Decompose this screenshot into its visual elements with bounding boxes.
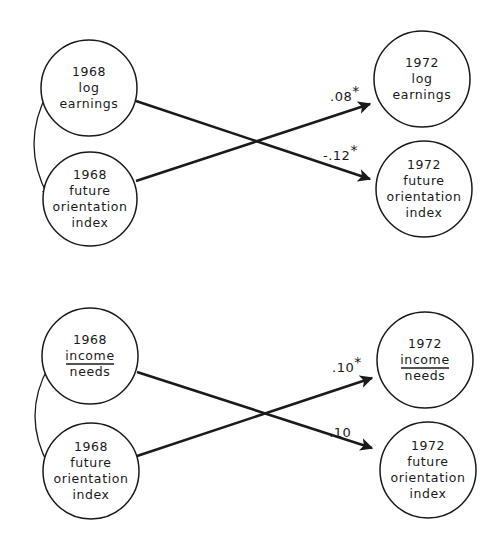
node-label-line: 1968: [73, 332, 107, 347]
node-label-line: index: [409, 486, 446, 501]
node-label-line: index: [405, 205, 442, 220]
node-label-line: income: [400, 352, 449, 367]
node-i1968_inc: 1968incomeneeds: [42, 308, 138, 404]
path-arrow-i1968_fut-to-i1972_inc: [137, 378, 372, 456]
node-label-line: needs: [405, 368, 446, 383]
node-label-line: needs: [70, 364, 111, 379]
node-label-line: orientation: [387, 189, 462, 204]
node-label-line: 1972: [405, 55, 439, 70]
node-label-line: future: [70, 455, 111, 470]
node-label-line: 1968: [73, 167, 107, 182]
significance-marker: *: [352, 83, 360, 99]
panel-income: .10*-.101968incomeneeds1968futureorienta…: [35, 308, 476, 519]
significance-marker: *: [350, 142, 358, 158]
node-label-line: 1968: [74, 439, 108, 454]
node-i1968_fut: 1968futureorientationindex: [43, 423, 139, 519]
node-label-line: 1968: [72, 64, 106, 79]
node-e1972_earn: 1972logearnings: [374, 31, 470, 127]
node-label-line: 1972: [411, 438, 445, 453]
path-coefficient: -.12*: [323, 142, 358, 163]
node-label-line: earnings: [393, 87, 452, 102]
node-i1972_inc: 1972incomeneeds: [377, 312, 473, 408]
node-label-line: log: [79, 80, 100, 95]
node-label-line: future: [403, 173, 444, 188]
path-coefficient: .10*: [332, 354, 362, 375]
node-i1972_fut: 1972futureorientationindex: [380, 422, 476, 518]
node-label-line: index: [71, 215, 108, 230]
node-label-line: index: [72, 487, 109, 502]
significance-marker: *: [354, 354, 362, 370]
path-coefficient: .08*: [330, 83, 360, 104]
node-label-line: future: [69, 183, 110, 198]
node-label-line: log: [412, 71, 433, 86]
node-label-line: orientation: [54, 471, 129, 486]
node-label-line: orientation: [53, 199, 128, 214]
node-e1968_earn: 1968logearnings: [41, 40, 137, 136]
node-e1972_fut: 1972futureorientationindex: [376, 141, 472, 237]
path-coefficient: -.10: [324, 425, 351, 440]
node-label-line: 1972: [408, 336, 442, 351]
node-label-line: orientation: [391, 470, 466, 485]
node-label-line: 1972: [407, 157, 441, 172]
panel-earnings: .08*-.12*1968logearnings1968futureorient…: [34, 31, 472, 246]
node-label-line: income: [65, 348, 114, 363]
node-e1968_fut: 1968futureorientationindex: [43, 152, 137, 246]
node-label-line: earnings: [60, 96, 119, 111]
node-label-line: future: [407, 454, 448, 469]
path-arrow-e1968_earn-to-e1972_fut: [136, 101, 370, 179]
path-diagram: .08*-.12*1968logearnings1968futureorient…: [0, 0, 499, 549]
path-arrow-e1968_fut-to-e1972_earn: [136, 104, 370, 181]
